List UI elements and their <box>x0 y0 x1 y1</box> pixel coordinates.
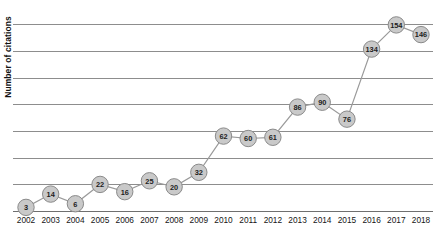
data-point-label: 3 <box>24 203 28 212</box>
x-tick-label: 2005 <box>91 215 109 225</box>
data-point-label: 32 <box>195 168 203 177</box>
x-tick-label: 2011 <box>239 215 257 225</box>
x-tick-label: 2017 <box>387 215 405 225</box>
data-point-label: 61 <box>269 133 277 142</box>
x-tick-label: 2003 <box>41 215 59 225</box>
data-point-label: 25 <box>145 177 153 186</box>
x-tick-label: 2016 <box>362 215 380 225</box>
data-point-label: 60 <box>244 134 252 143</box>
data-point-label: 76 <box>343 115 351 124</box>
x-tick-label: 2009 <box>190 215 208 225</box>
data-point-label: 86 <box>293 103 301 112</box>
x-tick-label: 2008 <box>165 215 183 225</box>
plot-area: 31462216252032626061869076134154146 <box>13 0 433 213</box>
series-markers: 31462216252032626061869076134154146 <box>18 17 429 216</box>
x-tick-label: 2015 <box>338 215 356 225</box>
data-point-label: 22 <box>96 180 104 189</box>
data-point-label: 6 <box>73 200 77 209</box>
citations-line-chart: Number of citations 31462216252032626061… <box>0 0 433 231</box>
series-line <box>26 25 421 207</box>
data-point-label: 154 <box>390 21 403 30</box>
x-tick-label: 2007 <box>140 215 158 225</box>
x-tick-label: 2006 <box>116 215 134 225</box>
x-tick-label: 2014 <box>313 215 331 225</box>
data-point-label: 62 <box>219 132 227 141</box>
data-point-label: 134 <box>365 45 378 54</box>
y-axis-title: Number of citations <box>3 0 13 117</box>
data-point-label: 16 <box>121 188 129 197</box>
data-point-label: 90 <box>318 98 326 107</box>
series-citations: 31462216252032626061869076134154146 <box>13 0 433 213</box>
x-tick-label: 2002 <box>17 215 35 225</box>
data-point-label: 146 <box>415 30 427 39</box>
x-axis-ticks: 2002200320042005200620072008200920102011… <box>13 215 433 231</box>
x-tick-label: 2004 <box>66 215 84 225</box>
data-point-label: 20 <box>170 183 178 192</box>
data-point-label: 14 <box>47 190 56 199</box>
x-tick-label: 2018 <box>412 215 430 225</box>
x-tick-label: 2013 <box>288 215 306 225</box>
x-tick-label: 2010 <box>214 215 232 225</box>
x-tick-label: 2012 <box>264 215 282 225</box>
